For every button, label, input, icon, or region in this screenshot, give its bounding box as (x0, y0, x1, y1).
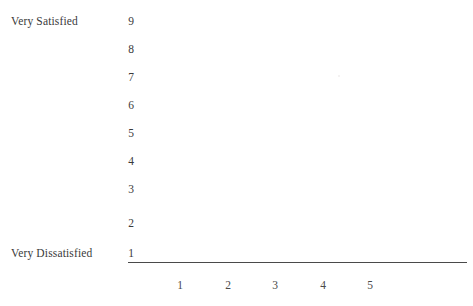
x-axis-tick: 3 (267, 279, 283, 292)
y-axis-tick: 9 (123, 15, 139, 28)
y-axis-tick: 5 (123, 127, 139, 140)
x-axis-tick: 5 (362, 279, 378, 292)
y-axis-anchor-label-low: Very Dissatisfied (11, 247, 92, 260)
plot-area (128, 14, 467, 262)
y-axis-tick: 2 (123, 217, 139, 230)
y-axis-tick: 3 (123, 183, 139, 196)
chart-canvas: Very Satisfied Very Dissatisfied 9 8 7 6… (0, 0, 473, 306)
x-axis-line (128, 262, 467, 263)
x-axis-tick: 2 (220, 279, 236, 292)
y-axis-tick: 8 (123, 43, 139, 56)
y-axis-tick: 7 (123, 71, 139, 84)
y-axis-tick: 4 (123, 155, 139, 168)
plot-artifact-speck (338, 75, 340, 77)
y-axis-tick: 6 (123, 99, 139, 112)
y-axis-tick: 1 (123, 247, 139, 260)
y-axis-anchor-label-high: Very Satisfied (11, 15, 78, 28)
x-axis-tick: 4 (315, 279, 331, 292)
x-axis-tick: 1 (172, 279, 188, 292)
